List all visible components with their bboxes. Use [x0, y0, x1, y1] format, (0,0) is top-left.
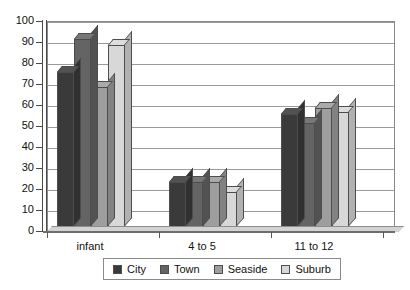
gridline [48, 43, 394, 44]
y-axis-tick-mark [36, 63, 43, 64]
y-axis-line [46, 20, 47, 232]
legend-swatch-icon [160, 265, 169, 274]
y-axis-tick-mark [36, 231, 43, 232]
y-axis-tick-mark [36, 126, 43, 127]
bar-side-face [237, 178, 244, 226]
y-axis-tick-label: 20 [8, 183, 34, 194]
legend-item-suburb[interactable]: Suburb [281, 264, 330, 275]
y-axis-tick-mark [36, 42, 43, 43]
legend-item-town[interactable]: Town [160, 264, 200, 275]
y-axis-tick-label: 40 [8, 141, 34, 152]
bar-front-face [57, 72, 74, 232]
x-axis-category-label: 4 to 5 [157, 240, 247, 252]
y-axis-tick-label: 50 [8, 120, 34, 131]
legend-item-seaside[interactable]: Seaside [214, 264, 268, 275]
y-axis-tick-mark [36, 210, 43, 211]
legend-swatch-icon [214, 265, 223, 274]
x-axis-tick-mark [271, 232, 272, 238]
gridline [48, 22, 394, 23]
legend-label: City [127, 264, 146, 275]
legend-label: Suburb [295, 264, 330, 275]
bar-side-face [298, 100, 305, 226]
y-axis-tick-mark [36, 168, 43, 169]
legend-swatch-icon [281, 265, 290, 274]
y-axis-tick-label: 80 [8, 57, 34, 68]
legend-label: Town [174, 264, 200, 275]
y-axis-tick-label: 60 [8, 99, 34, 110]
chart-legend: CityTownSeasideSuburb [103, 258, 341, 280]
plot-area [47, 21, 395, 231]
bar-side-face [108, 73, 115, 226]
y-axis-tick-label: 100 [8, 15, 34, 26]
bar-side-face [125, 31, 132, 226]
y-axis-tick-label: 10 [8, 204, 34, 215]
y-axis-tick-mark [36, 84, 43, 85]
bar-side-face [91, 24, 98, 226]
gridline [48, 64, 394, 65]
y-axis-tick-mark [36, 21, 43, 22]
x-axis-category-label: infant [45, 240, 135, 252]
bar-front-face [281, 114, 298, 232]
y-axis-tick-mark [36, 147, 43, 148]
legend-item-city[interactable]: City [113, 264, 146, 275]
x-axis-category-label: 11 to 12 [269, 240, 359, 252]
y-axis-tick-label: 90 [8, 36, 34, 47]
bar-side-face [315, 108, 322, 226]
y-axis-tick-label: 0 [8, 225, 34, 236]
bar-front-face [169, 182, 186, 232]
x-axis-tick-mark [47, 232, 48, 238]
bar-side-face [74, 58, 81, 226]
y-axis-tick-mark [36, 105, 43, 106]
bar-chart: 1009080706050403020100 infant4 to 511 to… [0, 0, 410, 290]
legend-label: Seaside [228, 264, 268, 275]
y-axis-tick-label: 70 [8, 78, 34, 89]
x-axis-tick-mark [383, 232, 384, 238]
legend-swatch-icon [113, 265, 122, 274]
bar-side-face [349, 98, 356, 226]
y-axis-tick-label: 30 [8, 162, 34, 173]
y-axis-tick-mark [36, 189, 43, 190]
x-axis-line [43, 231, 395, 233]
bar-side-face [332, 94, 339, 226]
y-axis-tick-labels: 1009080706050403020100 [0, 0, 34, 290]
x-axis-tick-mark [159, 232, 160, 238]
